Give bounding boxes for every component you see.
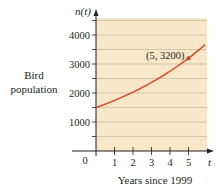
y-axis-arrow-icon (94, 9, 99, 16)
plot-area (96, 18, 207, 151)
x-tick-label: 4 (167, 157, 173, 168)
x-tick-label: 3 (149, 157, 154, 168)
y-axis-title: Bird population (4, 68, 64, 96)
x-axis-variable: t (208, 156, 212, 168)
highlighted-point (187, 56, 191, 60)
y-tick-label: 4000 (69, 30, 90, 41)
y-axis-variable: n(t) (75, 5, 91, 18)
x-tick-label: 5 (186, 157, 191, 168)
y-tick-label: 3000 (69, 59, 90, 70)
x-axis-arrow-icon (207, 149, 214, 154)
y-tick-label: 1000 (69, 117, 90, 128)
origin-label: 0 (82, 155, 87, 166)
y-tick-label: 2000 (69, 88, 90, 99)
x-axis-title: Years since 1999 (100, 174, 210, 186)
point-annotation: (5, 3200) (146, 50, 185, 62)
y-axis-title-line2: population (4, 82, 64, 96)
y-axis-title-line1: Bird (4, 68, 64, 82)
x-tick-label: 2 (130, 157, 135, 168)
x-tick-label: 1 (112, 157, 117, 168)
